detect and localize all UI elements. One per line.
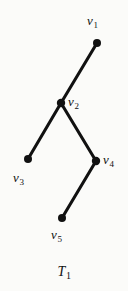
graph-canvas [0, 0, 128, 291]
graph-vertex-v1 [93, 39, 101, 47]
graph-edge-v2-v4 [61, 103, 96, 161]
graph-vertex-v3 [24, 155, 32, 163]
vertex-label-v1: v1 [87, 14, 97, 27]
vertices-group [24, 39, 101, 222]
figure-caption: T1 [0, 265, 128, 279]
vertex-label-v3: v3 [13, 171, 23, 184]
graph-vertex-v4 [92, 157, 100, 165]
vertex-label-v2: v2 [68, 95, 78, 108]
vertex-subscript-v5: 5 [57, 234, 62, 244]
vertex-label-v5: v5 [51, 228, 61, 241]
graph-edge-v2-v3 [28, 103, 61, 159]
graph-vertex-v2 [57, 99, 65, 107]
caption-subscript: 1 [66, 270, 71, 281]
vertex-subscript-v4: 4 [109, 159, 114, 169]
vertex-label-v4: v4 [103, 153, 113, 166]
caption-symbol: T [58, 264, 66, 279]
graph-vertex-v5 [58, 214, 66, 222]
vertex-subscript-v2: 2 [74, 101, 79, 111]
graph-edge-v1-v2 [61, 43, 97, 103]
tree-diagram-figure: v1 v2 v3 v4 v5 T1 [0, 0, 128, 291]
vertex-subscript-v1: 1 [93, 20, 98, 30]
graph-edge-v4-v5 [62, 161, 96, 218]
edges-group [28, 43, 97, 218]
vertex-subscript-v3: 3 [19, 177, 24, 187]
